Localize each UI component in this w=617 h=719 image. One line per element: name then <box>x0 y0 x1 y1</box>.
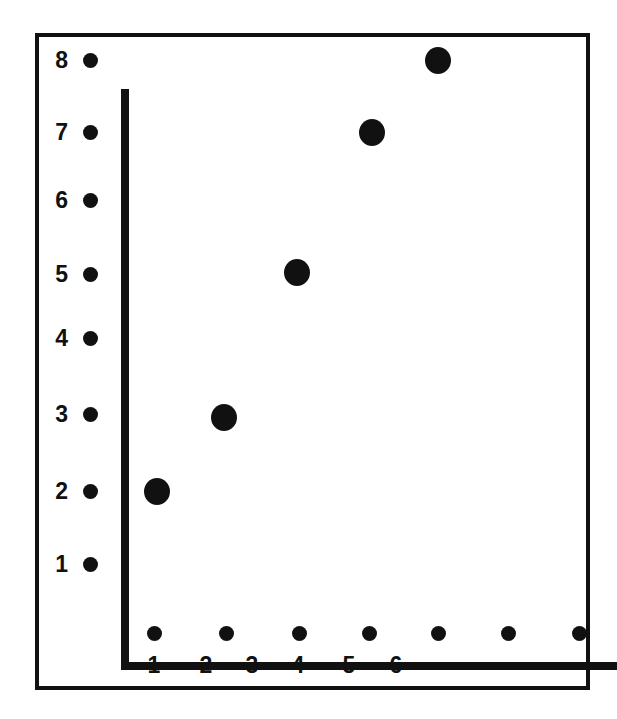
x-tick-label: 5 <box>343 654 356 677</box>
y-tick-dot <box>83 407 98 422</box>
y-tick-label: 4 <box>44 327 68 350</box>
x-tick-dot <box>147 626 162 641</box>
x-tick-dot <box>219 626 234 641</box>
data-point-5 <box>425 47 451 74</box>
data-point-1 <box>144 478 170 505</box>
y-tick-label: 7 <box>44 121 68 144</box>
x-tick-label: 3 <box>246 654 259 677</box>
data-point-4 <box>359 119 385 146</box>
data-point-3 <box>284 259 310 286</box>
y-tick-dot <box>83 484 98 499</box>
x-tick-dot <box>431 626 446 641</box>
x-tick-dot <box>362 626 377 641</box>
data-point-2 <box>211 404 237 431</box>
x-tick-dot <box>501 626 516 641</box>
y-tick-dot <box>83 331 98 346</box>
plot-frame-border: 87654321 123456 <box>35 33 590 690</box>
scatter-plot-figure: 87654321 123456 <box>0 0 617 719</box>
y-tick-label: 2 <box>44 480 68 503</box>
y-tick-dot <box>83 193 98 208</box>
y-axis-line <box>121 89 129 670</box>
y-tick-label: 8 <box>44 49 68 72</box>
x-tick-label: 6 <box>390 654 403 677</box>
y-tick-dot <box>83 53 98 68</box>
y-tick-label: 1 <box>44 553 68 576</box>
y-tick-dot <box>83 557 98 572</box>
x-tick-label: 1 <box>148 654 161 677</box>
x-tick-dot <box>572 626 587 641</box>
y-tick-dot <box>83 125 98 140</box>
y-tick-label: 5 <box>44 263 68 286</box>
y-tick-label: 6 <box>44 189 68 212</box>
x-tick-label: 2 <box>200 654 213 677</box>
y-tick-label: 3 <box>44 403 68 426</box>
y-tick-dot <box>83 267 98 282</box>
x-axis-line <box>121 662 617 670</box>
x-tick-label: 4 <box>292 654 305 677</box>
x-tick-dot <box>292 626 307 641</box>
